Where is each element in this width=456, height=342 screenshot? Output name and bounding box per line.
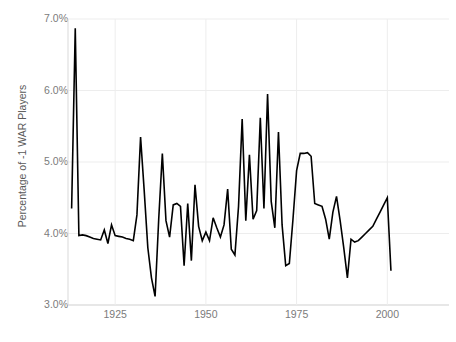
x-axis-tick-label: 1925 [85, 308, 145, 320]
x-axis-tick-label: 2000 [357, 308, 417, 320]
x-axis-tick-label: 1975 [267, 308, 327, 320]
chart-container: Percentage of -1 WAR Players 7.0%6.0%5.0… [0, 0, 456, 342]
plot-area [0, 0, 456, 342]
x-axis-tick-label: 1950 [176, 308, 236, 320]
